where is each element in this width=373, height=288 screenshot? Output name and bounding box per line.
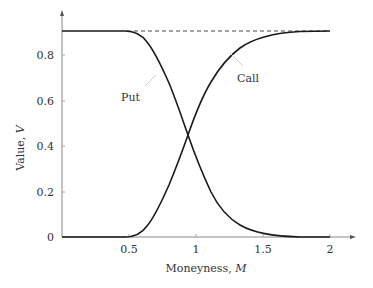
y-ticks: 0 0.2 0.4 0.6 0.8 xyxy=(37,49,66,244)
x-tick-label: 0.5 xyxy=(120,243,138,256)
x-tick-label: 2 xyxy=(327,243,334,256)
put-curve xyxy=(62,31,330,237)
y-axis-arrow-icon xyxy=(60,10,64,16)
call-leader-line xyxy=(230,53,243,66)
x-tick-label: 1 xyxy=(193,243,200,256)
chart: 0 0.2 0.4 0.6 0.8 0.5 1 1.5 2 Moneyness,… xyxy=(0,0,373,288)
y-tick-label: 0.8 xyxy=(37,49,55,62)
put-label: Put xyxy=(121,91,140,104)
y-tick-label: 0.4 xyxy=(37,140,55,153)
x-axis-title: Moneyness, M xyxy=(166,262,248,275)
put-leader-line xyxy=(145,75,156,86)
y-tick-label: 0 xyxy=(47,231,54,244)
x-axis-arrow-icon xyxy=(350,235,356,239)
axes xyxy=(60,10,356,239)
call-curve xyxy=(62,31,330,237)
y-axis-title: Value, V xyxy=(14,124,27,172)
x-tick-label: 1.5 xyxy=(254,243,272,256)
y-tick-label: 0.6 xyxy=(37,95,55,108)
y-tick-label: 0.2 xyxy=(37,186,55,199)
call-label: Call xyxy=(237,72,259,85)
